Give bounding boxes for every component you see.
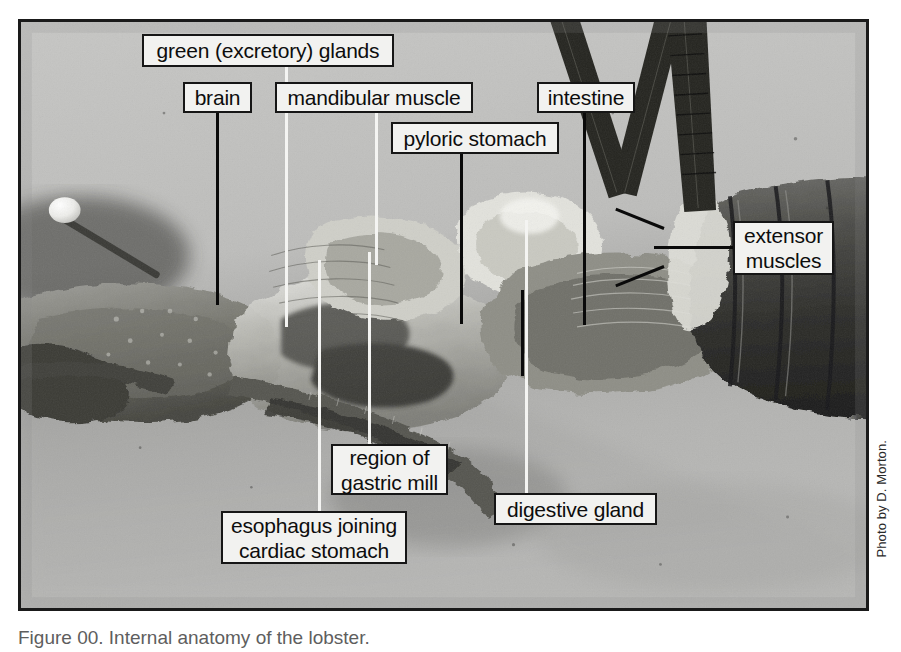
leader-line-esophagus	[318, 260, 321, 511]
leader-line-digestive-gland	[525, 220, 528, 493]
leader-line-intestine	[583, 113, 586, 325]
label-intestine[interactable]: intestine	[537, 82, 635, 113]
label-extensor-muscles[interactable]: extensor muscles	[733, 221, 834, 275]
leader-line-pyloric-stomach	[460, 154, 463, 324]
photo-credit: Photo by D. Morton.	[874, 440, 889, 558]
leader-line-brain	[216, 113, 219, 305]
label-mandibular-muscle[interactable]: mandibular muscle	[275, 82, 473, 113]
label-pyloric-stomach[interactable]: pyloric stomach	[391, 122, 559, 154]
leader-line-center-stub	[521, 290, 524, 376]
leader-line-mandibular-muscle	[375, 113, 378, 265]
label-brain[interactable]: brain	[183, 82, 252, 113]
label-digestive-gland[interactable]: digestive gland	[494, 493, 657, 525]
label-region-of-gastric-mill[interactable]: region of gastric mill	[331, 444, 448, 495]
label-green-excretory-glands[interactable]: green (excretory) glands	[142, 34, 394, 67]
leader-line-gastric-mill	[368, 252, 371, 444]
label-esophagus-cardiac-stomach[interactable]: esophagus joining cardiac stomach	[221, 511, 407, 564]
leader-line-extensor-muscles-stem	[654, 246, 734, 249]
figure-caption: Figure 00. Internal anatomy of the lobst…	[18, 627, 878, 652]
